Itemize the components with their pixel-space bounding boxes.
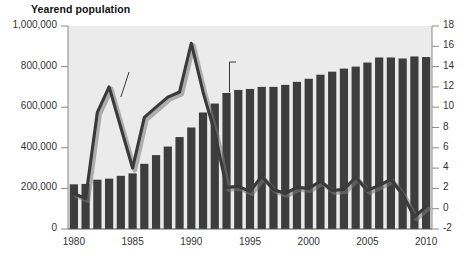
bar <box>199 112 207 229</box>
x-axis-tick-label: 2010 <box>401 236 451 247</box>
bar <box>164 147 172 229</box>
x-axis-tick-label: 1985 <box>108 236 158 247</box>
bar <box>375 57 383 229</box>
bar <box>363 63 371 229</box>
bar <box>105 179 113 229</box>
bar <box>387 57 395 229</box>
bar <box>352 67 360 229</box>
bar <box>399 58 407 229</box>
bar <box>340 69 348 229</box>
left-axis-tick-label: 0 <box>0 222 57 233</box>
chart-figure: Yearend population Annual percent change… <box>0 0 470 276</box>
right-axis-tick-label: -2 <box>443 222 452 233</box>
bar <box>305 79 313 229</box>
right-axis-tick-label: 4 <box>443 161 449 172</box>
bar <box>187 128 195 230</box>
x-axis-tick-label: 1995 <box>225 236 275 247</box>
bar <box>410 56 418 229</box>
left-axis-tick-label: 800,000 <box>0 60 57 71</box>
bar <box>140 164 148 229</box>
x-axis-tick-label: 2005 <box>342 236 392 247</box>
x-axis-tick-label: 2000 <box>284 236 334 247</box>
bar <box>422 57 430 229</box>
left-axis-tick-label: 1,000,000 <box>0 19 57 30</box>
bar <box>93 180 101 229</box>
bar <box>175 137 183 229</box>
bar <box>152 155 160 229</box>
bar <box>234 90 242 229</box>
bar <box>269 87 277 229</box>
x-axis-tick-label: 1990 <box>166 236 216 247</box>
x-axis-tick-label: 1980 <box>49 236 99 247</box>
bar <box>316 75 324 229</box>
bar <box>293 82 301 229</box>
right-axis-tick-label: 10 <box>443 100 454 111</box>
left-axis-tick-label: 600,000 <box>0 100 57 111</box>
bar <box>70 184 78 229</box>
bar <box>281 85 289 229</box>
right-axis-tick-label: 2 <box>443 181 449 192</box>
bar <box>328 72 336 229</box>
left-axis-tick-label: 200,000 <box>0 181 57 192</box>
left-axis-tick-label: 400,000 <box>0 141 57 152</box>
right-axis-tick-label: 12 <box>443 80 454 91</box>
bar <box>128 173 136 229</box>
right-axis-tick-label: 8 <box>443 121 449 132</box>
right-axis-tick-label: 0 <box>443 202 449 213</box>
bar <box>117 176 125 229</box>
right-axis-tick-label: 6 <box>443 141 449 152</box>
bar <box>246 89 254 229</box>
right-axis-tick-label: 16 <box>443 39 454 50</box>
bar <box>258 87 266 229</box>
right-axis-tick-label: 14 <box>443 60 454 71</box>
right-axis-tick-label: 18 <box>443 19 454 30</box>
plot-area <box>0 0 470 276</box>
